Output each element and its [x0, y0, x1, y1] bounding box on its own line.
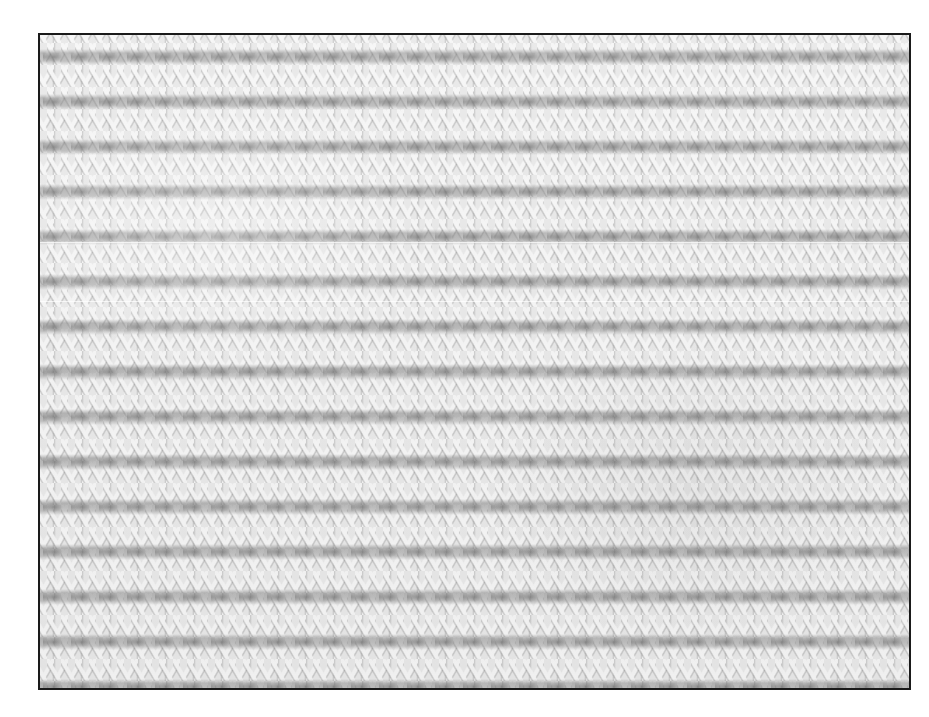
- scan-artifact-line: [40, 301, 909, 302]
- lighting-shade: [40, 35, 909, 688]
- knit-fabric-photo: [38, 33, 911, 690]
- scan-artifact-line: [40, 242, 909, 243]
